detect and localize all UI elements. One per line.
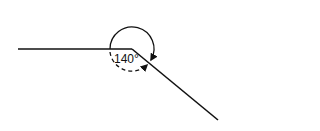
angle-label: 140° <box>114 52 139 66</box>
right-ray <box>132 49 218 120</box>
